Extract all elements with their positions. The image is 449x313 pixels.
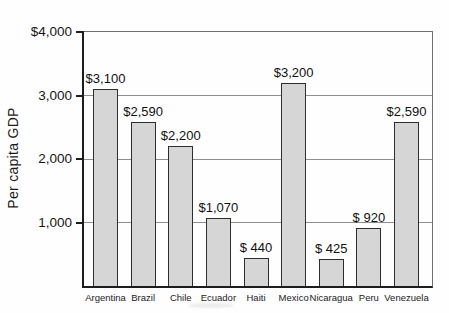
category-label-ecuador: Ecuador <box>201 292 236 303</box>
category-label-peru: Peru <box>359 292 379 303</box>
y-tick-label-1000: 1,000 <box>38 216 72 230</box>
y-tick-label-2000: 2,000 <box>38 152 72 166</box>
bar-group-ecuador: $1,070Ecuador <box>206 32 231 286</box>
bars-row: $3,100Argentina$2,590Brazil$2,200Chile$1… <box>84 32 432 286</box>
y-axis-title: Per capita GDP <box>5 107 21 208</box>
value-label-haiti: $ 440 <box>240 241 273 254</box>
y-tick-label-3000: 3,000 <box>38 89 72 103</box>
category-label-nicaragua: Nicaragua <box>310 292 353 303</box>
bar-group-peru: $ 920Peru <box>356 32 381 286</box>
scan-smudge-artifact <box>188 303 234 308</box>
bar-group-nicaragua: $ 425Nicaragua <box>319 32 344 286</box>
y-tick-1000 <box>76 222 84 224</box>
bar-group-brazil: $2,590Brazil <box>131 32 156 286</box>
bar-ecuador <box>206 218 231 286</box>
bar-nicaragua <box>319 259 344 286</box>
bar-group-venezuela: $2,590Venezuela <box>394 32 419 286</box>
category-label-chile: Chile <box>170 292 192 303</box>
value-label-peru: $ 920 <box>353 211 386 224</box>
bar-group-argentina: $3,100Argentina <box>93 32 118 286</box>
bar-venezuela <box>394 122 419 286</box>
value-label-argentina: $3,100 <box>86 72 126 85</box>
bar-group-chile: $2,200Chile <box>168 32 193 286</box>
value-label-chile: $2,200 <box>161 129 201 142</box>
bar-group-mexico: $3,200Mexico <box>281 32 306 286</box>
y-tick-4000 <box>76 31 84 33</box>
bar-group-haiti: $ 440Haiti <box>244 32 269 286</box>
bar-mexico <box>281 83 306 286</box>
value-label-brazil: $2,590 <box>123 105 163 118</box>
category-label-mexico: Mexico <box>279 292 309 303</box>
value-label-mexico: $3,200 <box>274 66 314 79</box>
category-label-argentina: Argentina <box>85 292 126 303</box>
bar-brazil <box>131 122 156 286</box>
value-label-ecuador: $1,070 <box>198 201 238 214</box>
value-label-nicaragua: $ 425 <box>315 242 348 255</box>
y-tick-2000 <box>76 158 84 160</box>
category-label-brazil: Brazil <box>131 292 155 303</box>
y-tick-3000 <box>76 95 84 97</box>
value-label-venezuela: $2,590 <box>387 105 427 118</box>
bar-peru <box>356 228 381 286</box>
y-tick-label-4000: $4,000 <box>31 25 72 39</box>
plot-area: $3,100Argentina$2,590Brazil$2,200Chile$1… <box>82 31 433 288</box>
gdp-bar-chart-figure: Per capita GDP $3,100Argentina$2,590Braz… <box>0 0 449 313</box>
bar-argentina <box>93 89 118 286</box>
bar-chile <box>168 146 193 286</box>
category-label-haiti: Haiti <box>246 292 265 303</box>
category-label-venezuela: Venezuela <box>384 292 428 303</box>
bar-haiti <box>244 258 269 286</box>
